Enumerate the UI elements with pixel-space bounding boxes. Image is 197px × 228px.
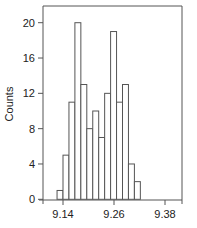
y-tick-label: 12 <box>23 87 35 99</box>
x-axis: 9.149.269.38 <box>43 200 176 220</box>
y-axis-title: Counts <box>3 86 15 121</box>
y-tick-label: 8 <box>29 123 35 135</box>
histogram-bar <box>111 32 117 200</box>
histogram-bars <box>57 23 140 200</box>
y-tick-label: 4 <box>29 158 35 170</box>
histogram-bar <box>123 85 129 200</box>
histogram-bar <box>134 182 140 200</box>
histogram-bar <box>75 23 81 200</box>
histogram-bar <box>93 111 99 199</box>
y-axis: 048121620 <box>23 17 43 206</box>
histogram-bar <box>128 164 134 199</box>
histogram-bar <box>57 190 63 199</box>
histogram-chart: 048121620 9.149.269.38 Counts <box>0 0 197 228</box>
histogram-bar <box>87 129 93 200</box>
x-tick-label: 9.26 <box>103 208 124 220</box>
x-tick-label: 9.38 <box>154 208 175 220</box>
histogram-bar <box>99 137 105 199</box>
y-tick-label: 16 <box>23 52 35 64</box>
y-tick-label: 20 <box>23 17 35 29</box>
histogram-bar <box>105 93 111 199</box>
histogram-bar <box>63 155 69 199</box>
histogram-bar <box>117 102 123 199</box>
histogram-bar <box>69 102 75 199</box>
y-tick-label: 0 <box>29 193 35 205</box>
x-tick-label: 9.14 <box>52 208 73 220</box>
histogram-bar <box>81 85 87 200</box>
